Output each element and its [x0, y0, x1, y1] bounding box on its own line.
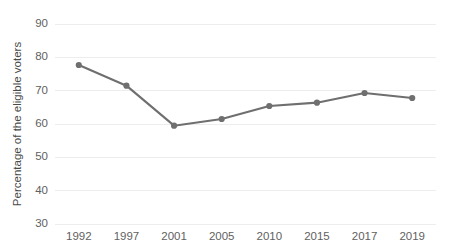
- x-axis-tick-label: 1992: [66, 230, 92, 242]
- y-axis-tick-label: 50: [35, 150, 48, 162]
- y-axis-tick-label: 30: [35, 217, 48, 229]
- x-axis-tick-label: 2019: [399, 230, 425, 242]
- chart-canvas: 90807060504030 1992199720012005201020152…: [0, 0, 452, 249]
- y-axis-tick-label: 90: [35, 17, 48, 29]
- x-axis-tick-label: 1997: [114, 230, 140, 242]
- x-axis-tick-label: 2005: [209, 230, 235, 242]
- y-axis-tick-label: 80: [35, 50, 48, 62]
- data-point-marker: [409, 95, 415, 101]
- data-point-marker: [314, 100, 320, 106]
- data-point-marker: [76, 62, 82, 68]
- x-axis-tick-label: 2015: [304, 230, 330, 242]
- data-point-marker: [171, 123, 177, 129]
- data-point-marker: [266, 103, 272, 109]
- y-axis-tick-label: 40: [35, 184, 48, 196]
- x-axis-tick-label: 2001: [161, 230, 187, 242]
- line-chart: 90807060504030 1992199720012005201020152…: [0, 0, 452, 249]
- x-axis-tick-label: 2017: [352, 230, 378, 242]
- y-axis-tick-label: 70: [35, 84, 48, 96]
- y-axis-tick-label: 60: [35, 117, 48, 129]
- x-axis-tick-label: 2010: [257, 230, 283, 242]
- data-point-marker: [123, 83, 129, 89]
- data-point-marker: [361, 90, 367, 96]
- y-axis-title: Percentage of the eligible voters: [11, 42, 23, 207]
- data-point-marker: [219, 116, 225, 122]
